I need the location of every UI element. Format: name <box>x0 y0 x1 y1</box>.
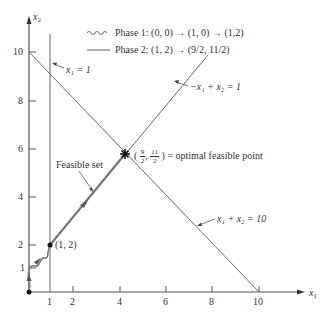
legend-phase1-sample <box>87 32 107 35</box>
y-tick-4: 4 <box>18 192 23 202</box>
x-tick-2: 2 <box>70 297 75 307</box>
y-tick-6: 6 <box>18 144 23 154</box>
arrow-sum-label-head-icon <box>197 223 202 227</box>
x2-axis-arrow-icon <box>27 16 32 24</box>
phase1-arrow-icon <box>27 274 32 281</box>
arrow-feasible-label-head-icon <box>89 187 93 192</box>
y-tick-1: 1 <box>20 263 25 273</box>
label-point-1-2: (1, 2) <box>55 240 77 250</box>
arrow-feasible-label <box>79 171 92 190</box>
y-tick-10: 10 <box>13 47 23 57</box>
legend-phase1-label: Phase 1: (0, 0) → (1, 0) → (1,2) <box>115 28 244 38</box>
label-optimal-point: ( 92, 112 ) = optimal feasible point <box>134 148 263 165</box>
x2-axis-label: x2 <box>33 12 41 24</box>
arrow-diag-label-head-icon <box>174 80 179 84</box>
label-sum-constraint: x₁ + x₂ = 10 <box>217 214 266 224</box>
x-tick-1: 1 <box>47 297 52 307</box>
x-tick-6: 6 <box>163 297 168 307</box>
optimal-point-star-icon <box>120 149 130 159</box>
x-tick-10: 10 <box>253 297 263 307</box>
x1-axis-arrow-icon <box>297 290 305 295</box>
legend-phase2-label: Phase 2: (1, 2) → (9/2, 11/2) <box>115 45 230 55</box>
x1-axis-label: x1 <box>309 288 317 300</box>
y-tick-2: 2 <box>18 240 23 250</box>
point-1-2 <box>48 243 53 248</box>
label-feasible-set: Feasible set <box>56 160 103 170</box>
y-tick-8: 8 <box>18 96 23 106</box>
label-x1-eq-1: x₁ = 1 <box>66 65 91 75</box>
x-tick-8: 8 <box>209 297 214 307</box>
x-tick-4: 4 <box>117 297 122 307</box>
arrow-x1-label-head-icon <box>52 63 57 67</box>
origin-point <box>27 290 32 295</box>
x-ticks <box>73 286 259 292</box>
label-diag-constraint: −x₁ + x₂ = 1 <box>190 82 241 92</box>
y-ticks <box>29 52 36 268</box>
